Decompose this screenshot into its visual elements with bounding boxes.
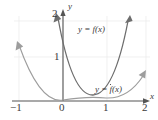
y-axis-arrow [60,9,65,16]
x-tick-label-0: 0 [59,102,65,113]
curve-f-bar-path [19,45,143,100]
curve-f-bar [16,41,146,100]
curve-f-bar-arrow-left [16,41,24,51]
x-tick-label-1: 1 [103,102,109,113]
curve-label-f-bar-prefix: y = [95,84,110,94]
y-tick-label-1: 1 [54,51,60,62]
plot-canvas [0,0,158,120]
y-axis-label: y [68,2,72,11]
curve-label-f-bar-suffix: (x) [112,84,122,94]
y-tick-label-2: 2 [52,8,58,19]
x-axis-label: x [150,92,154,101]
curve-label-f: y = f(x) [78,25,105,34]
math-figure-parabolas: −1 0 1 2 1 2 x y y = f(x) y = f(x) [0,0,158,120]
curve-label-f-text: y = f(x) [78,24,105,34]
curve-label-f-bar: y = f(x) [95,84,122,94]
curve-label-f-bar-fn: f [110,84,113,94]
curve-f-arrow-right [125,15,133,23]
x-tick-label-2: 2 [142,102,148,113]
x-tick-label--1: −1 [10,102,22,113]
